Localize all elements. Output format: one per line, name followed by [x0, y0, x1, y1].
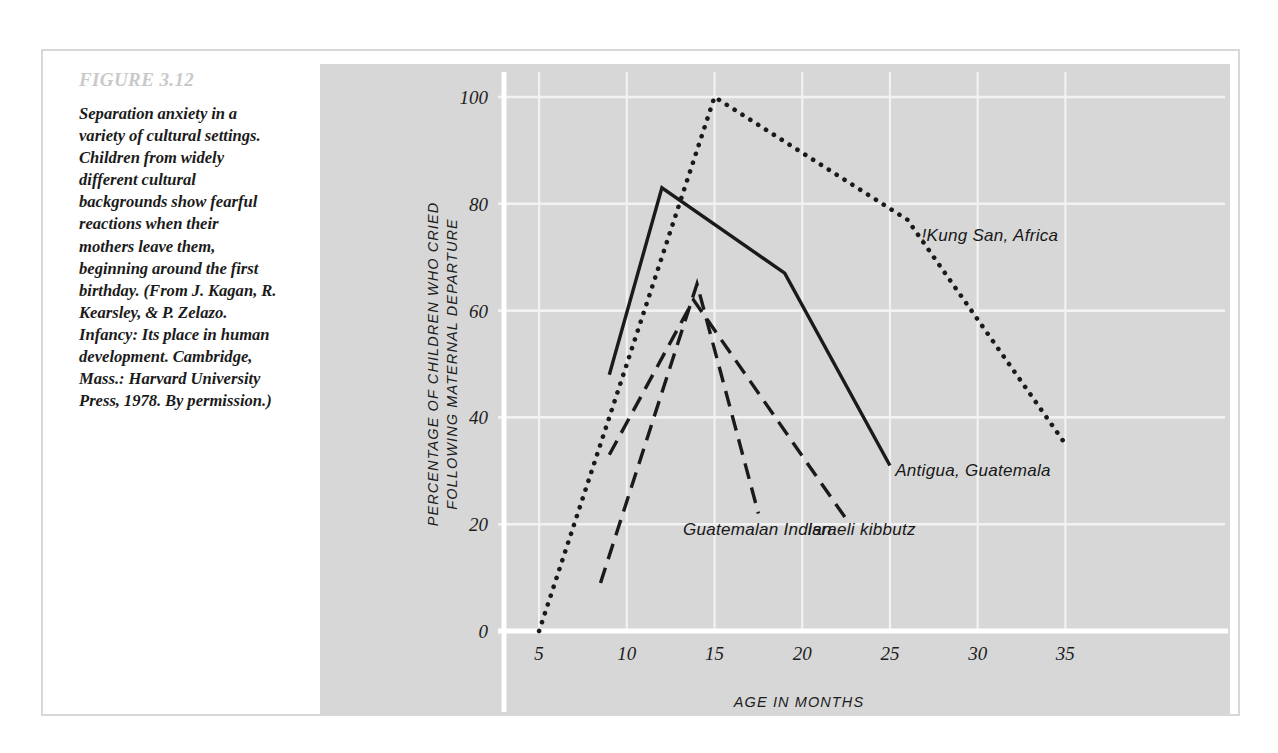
separation-anxiety-line-chart: 0204060801005101520253035 !Kung San, Afr… — [320, 64, 1230, 714]
y-tick-label: 40 — [469, 407, 489, 428]
x-tick-label: 15 — [705, 643, 724, 664]
x-axis-title: AGE IN MONTHS — [733, 694, 864, 710]
figure-caption: Separation anxiety in a variety of cultu… — [79, 103, 277, 412]
y-axis-title-line2: FOLLOWING MATERNAL DEPARTURE — [444, 218, 460, 510]
x-tick-label: 5 — [534, 643, 544, 664]
series-line-3 — [609, 300, 846, 519]
series-label-3: Israeli kibbutz — [807, 520, 916, 539]
chart-panel: 0204060801005101520253035 !Kung San, Afr… — [320, 64, 1230, 714]
series-line-1 — [609, 188, 890, 466]
figure-card: FIGURE 3.12 Separation anxiety in a vari… — [41, 49, 1240, 716]
x-tick-label: 35 — [1055, 643, 1075, 664]
y-tick-label: 80 — [469, 194, 489, 215]
y-tick-label: 0 — [479, 621, 489, 642]
y-axis-title-line1: PERCENTAGE OF CHILDREN WHO CRIED — [425, 202, 441, 527]
y-tick-label: 60 — [469, 301, 489, 322]
x-tick-label: 10 — [617, 643, 637, 664]
series-labels: !Kung San, AfricaAntigua, GuatemalaGuate… — [683, 226, 1058, 539]
y-tick-label: 20 — [469, 514, 489, 535]
caption-block: FIGURE 3.12 Separation anxiety in a vari… — [79, 69, 277, 412]
gridlines — [498, 72, 1225, 631]
axis-lines — [498, 72, 1228, 712]
axis-titles: AGE IN MONTHSPERCENTAGE OF CHILDREN WHO … — [425, 202, 864, 710]
figure-number: FIGURE 3.12 — [79, 69, 277, 91]
series-label-1: Antigua, Guatemala — [894, 461, 1051, 480]
x-tick-label: 20 — [793, 643, 813, 664]
y-tick-label: 100 — [460, 87, 489, 108]
series-label-0: !Kung San, Africa — [922, 226, 1059, 245]
x-tick-label: 30 — [967, 643, 988, 664]
x-tick-label: 25 — [880, 643, 899, 664]
tick-labels: 0204060801005101520253035 — [460, 87, 1075, 664]
